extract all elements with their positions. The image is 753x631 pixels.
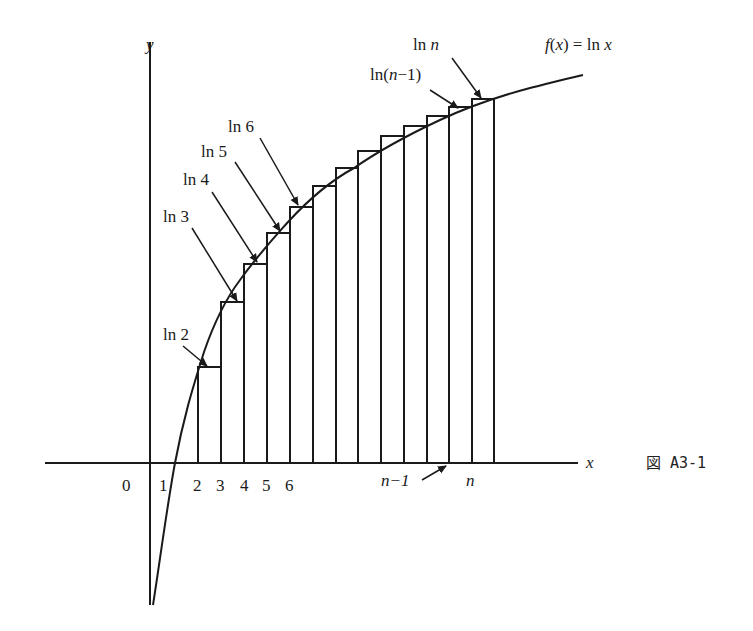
- label-ln3: ln 3: [163, 207, 189, 226]
- tick-2: 2: [193, 476, 202, 495]
- tick-n-minus-1: n−1: [381, 471, 409, 490]
- rect-5: [290, 207, 313, 463]
- rect-1: [198, 367, 221, 463]
- tick-4: 4: [240, 476, 249, 495]
- rect-8: [358, 151, 381, 463]
- label-ln4: ln 4: [183, 170, 209, 189]
- figure-caption: 図 A3-1: [646, 454, 706, 472]
- x-tick-labels: 1 2 3 4 5 6 n−1 n: [159, 471, 475, 495]
- rect-13: [472, 99, 494, 463]
- tick-1: 1: [159, 476, 168, 495]
- label-ln-n: ln n: [413, 35, 439, 54]
- rect-7: [336, 168, 358, 463]
- arrow-ln4: [212, 192, 257, 262]
- arrow-ln3: [192, 228, 237, 301]
- n-minus-1-arrow: [422, 466, 446, 480]
- tick-n: n: [466, 471, 475, 490]
- rect-12: [449, 107, 472, 463]
- arrow-ln-n-minus-1: [430, 90, 458, 108]
- rect-6: [313, 186, 336, 463]
- x-axis-label: x: [585, 453, 594, 472]
- rect-2: [221, 302, 244, 463]
- function-label: f(x) = ln x: [545, 35, 612, 54]
- tick-3: 3: [216, 476, 225, 495]
- label-ln2: ln 2: [163, 325, 189, 344]
- label-ln6: ln 6: [228, 117, 254, 136]
- arrow-ln5: [235, 162, 280, 231]
- tick-6: 6: [285, 476, 294, 495]
- y-axis-label: y: [144, 35, 154, 54]
- origin-label: 0: [122, 476, 131, 495]
- rectangles: [198, 99, 494, 463]
- arrow-ln6: [260, 138, 298, 205]
- rect-4: [267, 233, 290, 463]
- rect-9: [381, 136, 404, 463]
- arrow-ln-n: [452, 58, 481, 98]
- ln-x-rectangle-diagram: y x 0 1 2 3 4 5 6 n−1 n ln 2 ln 3 ln 4 l…: [0, 0, 753, 631]
- rect-3: [244, 264, 267, 463]
- rect-11: [427, 116, 449, 463]
- label-ln-n-minus-1: ln(n−1): [370, 65, 421, 84]
- tick-5: 5: [262, 476, 271, 495]
- label-ln5: ln 5: [201, 142, 227, 161]
- rect-10: [404, 126, 427, 463]
